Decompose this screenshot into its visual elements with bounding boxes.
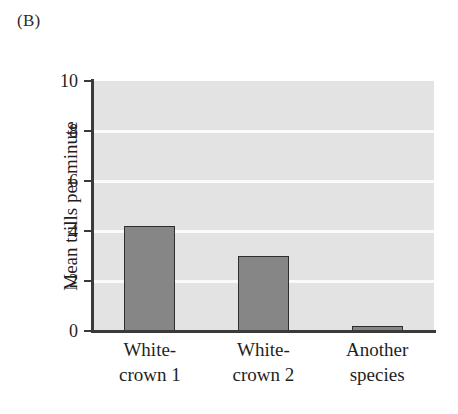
x-axis-category-label: White-crown 2 [207, 337, 321, 387]
y-axis-tick-label: 10 [52, 72, 78, 90]
y-axis-tick-mark [84, 130, 92, 132]
x-axis-line [91, 330, 436, 333]
x-axis-category-labels: White-crown 1White-crown 2Anotherspecies [93, 337, 434, 407]
plot-area [93, 81, 434, 331]
y-axis-tick-label: 8 [52, 122, 78, 140]
bar[interactable] [124, 226, 175, 331]
x-axis-category-label-line: crown 1 [93, 362, 207, 387]
y-axis-tick-mark [84, 230, 92, 232]
x-axis-category-label-line: crown 2 [207, 362, 321, 387]
x-axis-category-label-line: Another [320, 337, 434, 362]
y-axis-tick-mark [84, 80, 92, 82]
gridline [93, 130, 434, 133]
y-axis-tick-mark [84, 330, 92, 332]
y-axis-tick-label: 6 [52, 172, 78, 190]
y-axis-tick-mark [84, 280, 92, 282]
y-axis-tick-label: 4 [52, 222, 78, 240]
gridline [93, 180, 434, 183]
x-axis-category-label-line: White- [93, 337, 207, 362]
x-axis-category-label-line: species [320, 362, 434, 387]
x-axis-category-label-line: White- [207, 337, 321, 362]
x-axis-category-label: White-crown 1 [93, 337, 207, 387]
bar[interactable] [238, 256, 289, 331]
y-axis-tick-label: 0 [52, 322, 78, 340]
y-axis-tick-mark [84, 180, 92, 182]
y-axis-tick-labels: 0246810 [52, 0, 78, 414]
x-axis-category-label: Anotherspecies [320, 337, 434, 387]
y-axis-tick-label: 2 [52, 272, 78, 290]
panel-label: (B) [17, 12, 41, 29]
figure-panel-b: (B) Mean trills per minute 0246810 White… [0, 0, 458, 414]
y-axis-line [91, 79, 94, 333]
